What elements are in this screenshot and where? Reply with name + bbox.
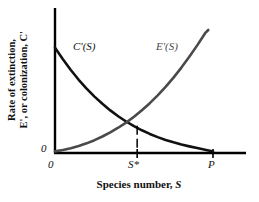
curve-colonization-c (55, 48, 213, 152)
x-tick-label-sstar: S* (128, 158, 139, 170)
x-axis-label: Species number, S (54, 178, 224, 190)
x-axis-label-text: Species number, S (97, 178, 182, 190)
curve-label-extinction: E'(S) (156, 40, 178, 52)
y-axis-label: Rate of extinction, E', or colonization,… (0, 0, 36, 160)
chart-plot-area (0, 0, 259, 202)
x-tick-label-p: P (208, 158, 215, 170)
y-axis-label-line1: Rate of extinction, (6, 39, 19, 121)
y-axis-label-line2: E', or colonization, C' (18, 31, 31, 129)
figure-container: Rate of extinction, E', or colonization,… (0, 0, 259, 202)
x-tick-label-0: 0 (48, 158, 54, 170)
curve-label-colonization: C'(S) (73, 40, 96, 52)
y-tick-label-0: 0 (41, 142, 47, 154)
